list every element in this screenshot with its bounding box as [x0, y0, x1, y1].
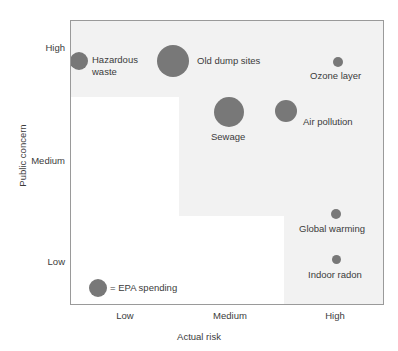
label-sewage: Sewage	[211, 131, 245, 143]
bubble-old-dump-sites	[157, 45, 189, 77]
label-ozone-layer: Ozone layer	[310, 70, 361, 82]
y-axis-title: Public concern	[17, 86, 28, 226]
bubble-ozone-layer	[333, 57, 343, 67]
plot-area: Hazardous waste Old dump sites Ozone lay…	[70, 20, 384, 305]
bubble-indoor-radon	[332, 255, 341, 264]
y-tick-medium: Medium	[5, 155, 65, 166]
label-indoor-radon: Indoor radon	[308, 269, 362, 281]
x-tick-high: High	[300, 310, 370, 321]
legend-bubble-swatch	[89, 279, 107, 297]
x-tick-medium: Medium	[195, 310, 265, 321]
x-tick-low: Low	[90, 310, 160, 321]
risk-vs-concern-bubble-chart: High Medium Low Public concern Hazardous…	[0, 0, 398, 351]
bubble-hazardous-waste	[70, 52, 88, 70]
label-hazardous-waste: Hazardous waste	[92, 54, 138, 77]
label-air-pollution: Air pollution	[303, 116, 353, 128]
label-global-warming: Global warming	[299, 223, 365, 235]
bubble-air-pollution	[275, 100, 297, 122]
bubble-global-warming	[331, 209, 341, 219]
label-old-dump-sites: Old dump sites	[197, 55, 260, 67]
legend-label: = EPA spending	[110, 282, 177, 294]
x-axis-title: Actual risk	[0, 331, 398, 342]
bubble-sewage	[214, 97, 244, 127]
y-tick-low: Low	[5, 256, 65, 267]
y-tick-high: High	[5, 42, 65, 53]
